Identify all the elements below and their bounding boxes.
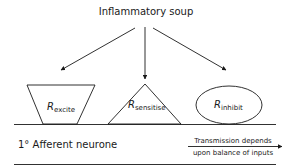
- diagram-canvas: Inflammatory soup Rexcite Rsensitise Rin…: [0, 0, 296, 168]
- transmission-line2: upon balance of inputs: [193, 149, 274, 157]
- arrows-group: [61, 27, 226, 79]
- arrow-to-inhibit: [153, 28, 226, 70]
- trapezoid-shape: [27, 85, 95, 124]
- arrow-to-excite: [61, 28, 135, 70]
- transmission-group: Transmission depends upon balance of inp…: [188, 137, 282, 157]
- transmission-line1: Transmission depends: [193, 137, 272, 145]
- receptor-excite-label: Rexcite: [47, 101, 75, 114]
- receptor-sensitise: Rsensitise: [108, 84, 181, 124]
- receptor-inhibit-label: Rinhibit: [214, 99, 243, 112]
- receptor-inhibit: Rinhibit: [196, 86, 262, 124]
- receptor-excite: Rexcite: [27, 85, 95, 124]
- diagram-title: Inflammatory soup: [99, 6, 194, 17]
- neurone-label: 1° Afferent neurone: [18, 139, 117, 150]
